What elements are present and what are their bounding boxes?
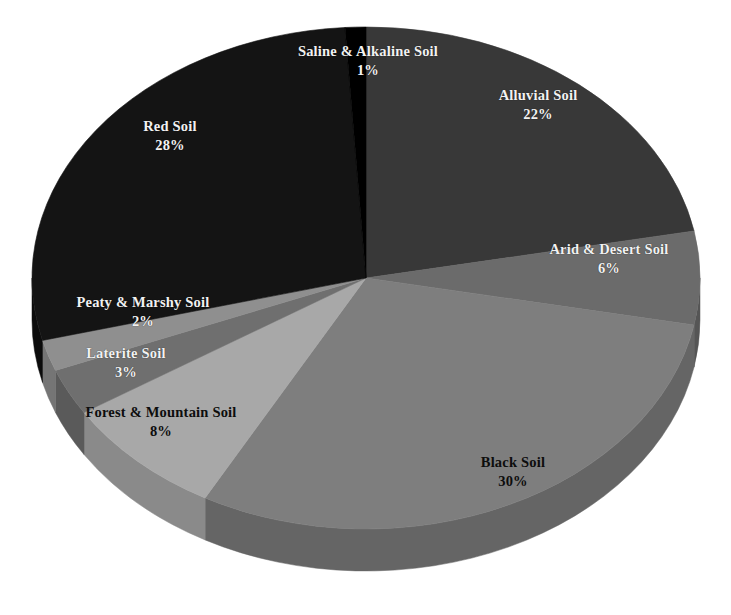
pie-top-faces <box>32 27 700 529</box>
pie-chart: Saline & Alkaline Soil 1% Alluvial Soil … <box>0 0 731 615</box>
pie-chart-canvas <box>0 0 731 615</box>
